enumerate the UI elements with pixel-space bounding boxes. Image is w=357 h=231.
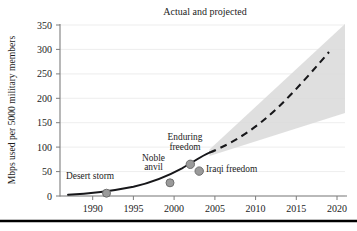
y-axis-title: Mbps used per 5000 military members: [6, 36, 17, 185]
x-tick-label-1995: 1995: [123, 203, 143, 214]
x-tick-label-1990: 1990: [83, 203, 103, 214]
annotation-noble-anvil-line2: anvil: [144, 162, 163, 172]
y-tick-label-150: 150: [37, 117, 52, 128]
chart-canvas: 0 50 100 150 200 250 300 350 1990 1995 2…: [0, 0, 357, 231]
annotation-desert-storm: Desert storm: [66, 171, 115, 181]
y-tick-label-0: 0: [47, 191, 52, 202]
x-tick-labels: 1990 1995 2000 2005 2010 2015 2020: [83, 203, 347, 214]
x-tick-label-2000: 2000: [164, 203, 184, 214]
x-tick-label-2015: 2015: [286, 203, 306, 214]
x-tick-label-2010: 2010: [246, 203, 266, 214]
marker-noble-anvil[interactable]: [166, 179, 174, 187]
chart-title: Actual and projected: [163, 6, 246, 17]
marker-iraqi-freedom[interactable]: [195, 167, 203, 175]
annotation-enduring-freedom-line2: freedom: [169, 142, 201, 152]
y-tick-labels: 0 50 100 150 200 250 300 350: [37, 20, 52, 202]
marker-enduring-freedom[interactable]: [186, 160, 194, 168]
y-tick-label-100: 100: [37, 142, 52, 153]
marker-desert-storm[interactable]: [103, 189, 111, 197]
x-tick-label-2005: 2005: [205, 203, 225, 214]
figure-container: 0 50 100 150 200 250 300 350 1990 1995 2…: [0, 0, 357, 231]
y-tick-label-350: 350: [37, 20, 52, 31]
annotation-iraqi-freedom: Iraqi freedom: [206, 164, 258, 174]
projection-uncertainty-band: [210, 24, 346, 156]
annotation-enduring-freedom-line1: Enduring: [168, 132, 203, 142]
y-tick-label-250: 250: [37, 68, 52, 79]
y-tick-label-300: 300: [37, 44, 52, 55]
annotation-noble-anvil-line1: Noble: [142, 153, 165, 163]
y-tick-label-50: 50: [42, 166, 52, 177]
y-tick-label-200: 200: [37, 93, 52, 104]
x-tick-label-2020: 2020: [327, 203, 347, 214]
